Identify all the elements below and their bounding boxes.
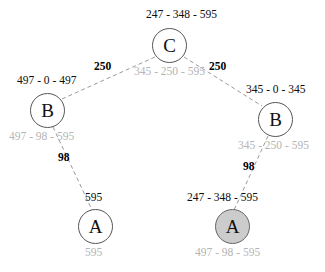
node-left-a[interactable]: A	[78, 209, 113, 244]
right-b-top-label: 345 - 0 - 345	[246, 83, 305, 95]
tree-diagram-canvas: 247 - 348 - 595 C 345 - 250 - 595 497 - …	[0, 0, 325, 272]
root-top-label: 247 - 348 - 595	[146, 8, 217, 20]
node-left-b[interactable]: B	[30, 93, 65, 128]
root-bottom-label: 345 - 250 - 595	[134, 65, 205, 77]
node-right-b-label: B	[269, 110, 282, 129]
left-b-top-label: 497 - 0 - 497	[17, 74, 76, 86]
node-left-b-label: B	[41, 101, 54, 120]
right-a-bottom-label: 497 - 98 - 595	[195, 246, 260, 258]
left-a-top-label: 595	[85, 191, 102, 203]
left-b-bottom-label: 497 - 98 - 595	[9, 130, 74, 142]
node-right-a[interactable]: A	[215, 209, 250, 244]
edge-weight-right-b-right-a: 98	[243, 160, 255, 172]
node-root-c[interactable]: C	[152, 28, 187, 63]
edge-weight-left-b-left-a: 98	[58, 151, 70, 163]
right-b-bottom-label: 345 - 250 - 595	[238, 139, 309, 151]
edge-weight-root-right-b: 250	[209, 60, 226, 72]
left-a-bottom-label: 595	[85, 246, 102, 258]
right-a-top-label: 247 - 348 - 595	[187, 191, 258, 203]
node-root-c-label: C	[163, 36, 176, 55]
node-right-b[interactable]: B	[258, 102, 293, 137]
edge-weight-root-left-b: 250	[94, 60, 111, 72]
node-right-a-label: A	[226, 217, 240, 236]
node-left-a-label: A	[89, 217, 103, 236]
